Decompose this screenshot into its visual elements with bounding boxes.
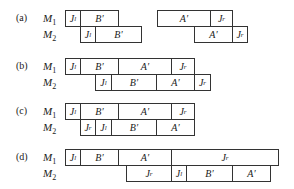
job-block: A′: [118, 149, 172, 166]
job-block: A′: [232, 165, 271, 182]
job-block: A′: [194, 26, 233, 43]
job-block: Jr: [126, 165, 172, 182]
machine-label: M1: [43, 12, 56, 29]
job-block: Jl: [95, 119, 112, 136]
job-block: A′: [118, 58, 172, 75]
job-block: B′: [186, 165, 233, 182]
job-block: Jl: [65, 103, 81, 120]
job-block: B′: [95, 26, 142, 43]
job-block: B′: [80, 103, 119, 120]
job-block: B′: [111, 74, 157, 91]
machine-label: M2: [43, 167, 56, 184]
job-block: Jl: [65, 10, 81, 27]
job-block: Jl: [171, 165, 187, 182]
job-block: Jl: [65, 149, 81, 166]
machine-label: M2: [43, 121, 56, 138]
job-block: Jr: [171, 58, 195, 75]
machine-label: M1: [43, 151, 56, 168]
job-block: B′: [80, 149, 119, 166]
machine-label: M2: [43, 76, 56, 93]
job-block: Jl: [65, 58, 81, 75]
job-block: A′: [157, 10, 211, 27]
panel-label: (b): [16, 60, 28, 72]
job-block: A′: [156, 119, 195, 136]
job-block: B′: [80, 10, 119, 27]
panel-label: (a): [16, 12, 27, 24]
job-block: B′: [111, 119, 157, 136]
machine-label: M1: [43, 105, 56, 122]
panel-label: (d): [16, 151, 28, 163]
panel-label: (c): [16, 105, 27, 117]
job-block: Jl: [80, 26, 96, 43]
machine-label: M2: [43, 28, 56, 45]
job-block: Jr: [194, 74, 211, 91]
job-block: A′: [156, 74, 195, 91]
job-block: Jr: [171, 103, 195, 120]
job-block: Jr: [171, 149, 279, 166]
job-block: B′: [80, 58, 119, 75]
job-block: A′: [118, 103, 172, 120]
job-block: Jr: [80, 119, 96, 136]
job-block: Jr: [232, 26, 248, 43]
job-block: Jl: [95, 74, 112, 91]
job-block: Jr: [210, 10, 233, 27]
machine-label: M1: [43, 60, 56, 77]
